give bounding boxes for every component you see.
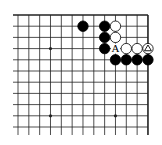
- white-stone: [132, 43, 142, 53]
- point-label: A: [111, 42, 119, 54]
- black-stone: [110, 55, 120, 65]
- star-point: [49, 114, 52, 117]
- labels: A: [111, 42, 120, 54]
- white-stone: [110, 21, 120, 31]
- black-stone: [132, 55, 142, 65]
- black-stone: [143, 55, 153, 65]
- black-stone: [78, 21, 88, 31]
- star-point: [114, 114, 117, 117]
- black-stone: [99, 43, 109, 53]
- grid-lines: [13, 15, 148, 135]
- black-stone: [121, 55, 131, 65]
- white-stone: [121, 43, 131, 53]
- go-board: A: [0, 0, 162, 145]
- star-point: [49, 47, 52, 50]
- white-stone: [110, 32, 120, 42]
- black-stone: [99, 32, 109, 42]
- black-stone: [99, 21, 109, 31]
